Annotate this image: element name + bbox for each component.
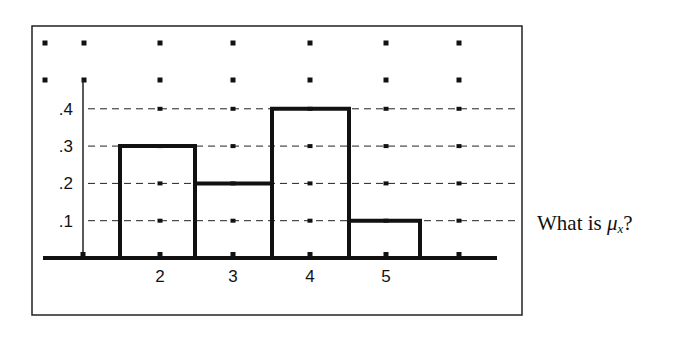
grid-dot <box>308 219 313 223</box>
grid-dot <box>158 78 163 83</box>
x-tick-label: 2 <box>155 267 164 286</box>
grid-dot <box>231 144 236 148</box>
grid-dot <box>158 219 163 223</box>
y-tick-label: .2 <box>59 174 73 193</box>
question-text: What is μx? <box>537 211 633 237</box>
question-prefix: What is <box>537 211 607 235</box>
x-tick-label: 5 <box>381 267 390 286</box>
grid-dot <box>43 41 48 46</box>
probability-histogram: .1.2.3.42345 <box>0 0 674 361</box>
grid-dot <box>82 41 87 46</box>
grid-dot <box>308 78 313 83</box>
grid-dot <box>457 181 462 185</box>
grid-dot <box>457 41 462 46</box>
grid-dot <box>384 107 389 111</box>
grid-dot <box>231 107 236 111</box>
grid-dot <box>308 144 313 148</box>
grid-dot <box>231 41 236 46</box>
y-tick-label: .4 <box>59 100 73 119</box>
grid-dot <box>457 78 462 83</box>
grid-dot <box>384 144 389 148</box>
grid-dot <box>457 107 462 111</box>
mu-symbol: μ <box>607 211 618 235</box>
grid-dot <box>384 41 389 46</box>
x-tick-label: 3 <box>228 267 237 286</box>
grid-dot <box>43 78 48 83</box>
grid-dot <box>158 107 163 111</box>
grid-dot <box>231 78 236 83</box>
chart-frame <box>32 26 522 315</box>
grid-dot <box>158 181 163 185</box>
grid-dot <box>231 219 236 223</box>
question-suffix: ? <box>623 211 632 235</box>
grid-dot <box>308 181 313 185</box>
histogram-bar <box>120 146 195 258</box>
grid-dot <box>457 219 462 223</box>
x-tick-label: 4 <box>305 267 314 286</box>
grid-dot <box>457 144 462 148</box>
grid-dot <box>384 78 389 83</box>
y-tick-label: .3 <box>59 137 73 156</box>
grid-dot <box>158 41 163 46</box>
y-tick-label: .1 <box>59 212 73 231</box>
grid-dot <box>384 181 389 185</box>
grid-dot <box>308 41 313 46</box>
